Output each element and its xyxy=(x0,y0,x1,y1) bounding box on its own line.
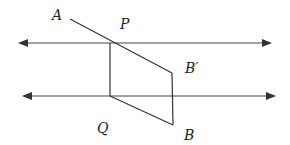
label-q: Q xyxy=(97,120,109,136)
label-b-prime: B′ xyxy=(184,60,199,76)
label-a: A xyxy=(50,7,62,23)
geometry-diagram: A P B′ Q B xyxy=(0,0,290,145)
segment-q-b xyxy=(110,96,173,125)
segment-b-prime-b xyxy=(172,73,173,125)
label-b: B xyxy=(183,127,194,143)
label-p: P xyxy=(119,16,130,32)
